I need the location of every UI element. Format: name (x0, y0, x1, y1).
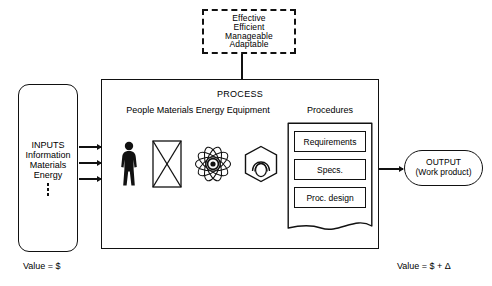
process-box: PROCESS People Materials Energy Equipmen… (101, 79, 379, 249)
process-title: PROCESS (102, 89, 378, 99)
process-resources-label: People Materials Energy Equipment (114, 105, 282, 115)
inputs-item-materials: Materials (30, 160, 67, 170)
goals-to-process-connector (241, 54, 243, 79)
hex-nut-icon (244, 145, 278, 183)
output-subheading: (Work product) (415, 168, 471, 178)
inputs-ellipsis-icon (47, 183, 50, 196)
input-value-caption: Value = $ (23, 261, 61, 271)
input-arrow-1 (79, 146, 101, 148)
procedure-item-proc-design: Proc. design (294, 187, 366, 208)
procedures-item-list: Requirements Specs. Proc. design (287, 122, 373, 208)
input-arrow-2 (79, 162, 101, 164)
quality-attribute-adaptable: Adaptable (229, 40, 268, 49)
atom-icon (194, 145, 232, 183)
output-arrow (379, 168, 403, 170)
quality-attributes-box: Effective Efficient Manageable Adaptable (202, 9, 296, 54)
procedure-item-requirements: Requirements (294, 131, 366, 152)
material-block-icon (152, 140, 182, 188)
output-value-caption: Value = $ + Δ (397, 261, 451, 271)
inputs-heading: INPUTS (31, 140, 64, 150)
inputs-box: INPUTS Information Materials Energy (18, 84, 78, 252)
inputs-item-energy: Energy (34, 170, 63, 180)
input-arrow-3 (79, 178, 101, 180)
procedures-document: Requirements Specs. Proc. design (287, 122, 373, 236)
inputs-item-information: Information (25, 150, 70, 160)
resource-icon-row (112, 137, 284, 191)
person-icon (118, 141, 140, 187)
output-box: OUTPUT (Work product) (404, 150, 483, 186)
diagram-canvas: Effective Efficient Manageable Adaptable… (0, 0, 492, 286)
process-procedures-label: Procedures (288, 105, 372, 115)
procedure-item-specs: Specs. (294, 159, 366, 180)
